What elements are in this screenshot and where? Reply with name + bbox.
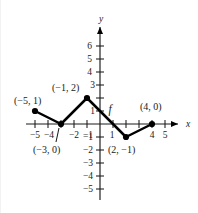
x-tick-label-neg2: −2 [69, 130, 79, 140]
x-tick-label-pos5: 5 [163, 130, 168, 140]
point-label-neg5-1: (−5, 1) [14, 95, 41, 107]
y-tick-label-pos3: 3 [90, 80, 95, 90]
y-tick-labels: 6 5 4 3 1 −1 −2 −3 −4 −5 [83, 41, 95, 194]
y-tick-label-pos5: 5 [87, 54, 92, 64]
leader-line-neg3-0 [56, 128, 59, 142]
y-tick-label-pos1: 1 [90, 106, 95, 116]
data-point-neg3-0 [58, 121, 64, 127]
y-tick-label-pos4: 4 [87, 67, 92, 77]
y-tick-label-neg5: −5 [83, 184, 93, 194]
point-label-neg1-2: (−1, 2) [52, 82, 79, 94]
y-tick-label-pos6: 6 [87, 41, 92, 51]
x-tick-label-neg4: −4 [44, 130, 54, 140]
data-point-neg5-1 [32, 108, 38, 114]
function-label-f: f [108, 103, 113, 116]
y-tick-label-neg3: −3 [83, 158, 93, 168]
point-label-2-neg1: (2, −1) [108, 144, 135, 156]
y-axis-arrowhead [97, 27, 103, 34]
data-point-4-0 [149, 121, 155, 127]
graph-figure: −5 −4 −2 −1 1 4 5 6 5 4 3 1 −1 −2 −3 −4 … [0, 0, 198, 213]
y-axis-label: y [98, 14, 104, 24]
y-tick-label-neg4: −4 [83, 171, 93, 181]
point-label-4-0: (4, 0) [140, 101, 162, 113]
data-point-2-neg1 [123, 134, 129, 140]
x-tick-label-pos1: 1 [110, 130, 115, 140]
x-tick-label-pos4: 4 [150, 130, 155, 140]
x-tick-labels: −5 −4 −2 −1 1 4 5 [30, 130, 168, 140]
data-point-neg1-2 [84, 95, 90, 101]
y-tick-label-neg2: −2 [83, 145, 93, 155]
x-axis-label: x [185, 119, 191, 129]
point-label-neg3-0: (−3, 0) [33, 144, 60, 156]
figure-left-edge [0, 0, 1, 213]
y-tick-label-neg1: −1 [83, 132, 93, 142]
coordinate-plane: −5 −4 −2 −1 1 4 5 6 5 4 3 1 −1 −2 −3 −4 … [0, 0, 198, 213]
x-tick-label-neg5: −5 [30, 130, 40, 140]
x-axis-arrowhead [171, 121, 178, 127]
